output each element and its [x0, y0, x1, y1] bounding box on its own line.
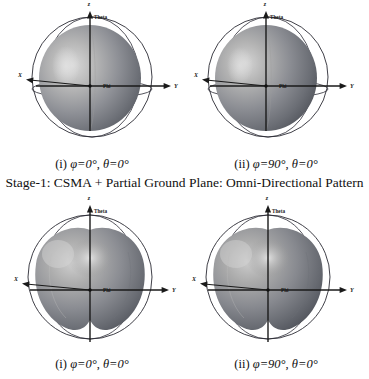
origin-marker [264, 84, 267, 87]
z-axis-arrowhead [263, 11, 269, 18]
pattern-panel-top-left: z Theta Y X Phi [0, 0, 184, 155]
subcaption-index: (i) [55, 157, 67, 171]
theta-axis-label: Theta [272, 208, 285, 214]
x-axis-arrowhead [200, 281, 208, 287]
z-axis-label: z [87, 195, 91, 201]
pattern-panel-top-right: z Theta Y X Phi [184, 0, 368, 155]
lobe-specular-highlight [52, 46, 80, 86]
phi-label: Phi [103, 83, 111, 89]
phi-label: Phi [103, 287, 111, 293]
x-axis-label: X [13, 276, 19, 282]
subcaption-index: (ii) [234, 357, 249, 371]
x-axis-label: X [17, 72, 23, 78]
y-axis-label: Y [172, 287, 177, 293]
y-axis-arrowhead [340, 287, 347, 293]
subcaption-theta: θ=0° [103, 157, 129, 171]
origin-marker [88, 288, 91, 291]
subcaption-bottom-right: (ii) φ=90°, θ=0° [184, 355, 368, 374]
subcaption-phi: φ=0° [70, 357, 97, 371]
y-axis-arrowhead [162, 287, 169, 293]
subcaption-theta: θ=0° [292, 357, 318, 371]
subcaption-row-stage-2: (i) φ=0°, θ=0° (ii) φ=90°, θ=0° [0, 355, 369, 374]
y-axis-label: Y [350, 287, 355, 293]
origin-marker [266, 288, 269, 291]
theta-axis-label: Theta [94, 14, 107, 20]
z-axis-arrowhead [87, 205, 93, 212]
pattern-row-stage-1: z Theta Y X Phi [0, 0, 369, 155]
pattern-row-stage-2: z Theta Y X Phi [0, 192, 369, 355]
y-axis-arrowhead [340, 83, 347, 89]
subcaption-index: (i) [55, 357, 67, 371]
theta-axis-label: Theta [270, 14, 283, 20]
phi-label: Phi [281, 287, 289, 293]
z-axis-arrowhead [87, 11, 93, 18]
z-axis-arrowhead [265, 205, 271, 212]
z-axis-label: z [265, 195, 269, 201]
subcaption-theta: θ=0° [292, 157, 318, 171]
x-axis-arrowhead [202, 77, 210, 83]
radiation-pattern-figure: z Theta Y X Phi [0, 0, 369, 379]
subcaption-top-left: (i) φ=0°, θ=0° [0, 155, 184, 174]
x-axis-arrowhead [26, 77, 34, 83]
lobe-specular-highlight [220, 240, 252, 268]
subcaption-row-stage-1: (i) φ=0°, θ=0° (ii) φ=90°, θ=0° [0, 155, 369, 174]
subcaption-theta: θ=0° [103, 357, 129, 371]
subcaption-index: (ii) [234, 157, 249, 171]
subcaption-bottom-left: (i) φ=0°, θ=0° [0, 355, 184, 374]
subcaption-phi: φ=90° [253, 357, 286, 371]
x-axis-arrowhead [22, 281, 30, 287]
subcaption-top-right: (ii) φ=90°, θ=0° [184, 155, 368, 174]
x-axis-label: X [193, 72, 199, 78]
y-axis-arrowhead [164, 83, 171, 89]
y-axis-label: Y [350, 83, 355, 89]
main-caption: Stage-1: CSMA + Partial Ground Plane: Om… [0, 174, 369, 192]
z-axis-label: z [87, 1, 91, 7]
z-axis-label: z [263, 1, 267, 7]
lobe-specular-highlight [227, 47, 253, 85]
phi-label: Phi [279, 83, 287, 89]
lobe-specular-highlight [42, 240, 74, 268]
x-axis-label: X [191, 276, 197, 282]
pattern-panel-bottom-right: z Theta Y X Phi [184, 192, 368, 355]
origin-marker [88, 84, 91, 87]
subcaption-phi: φ=0° [70, 157, 97, 171]
y-axis-label: Y [174, 83, 179, 89]
subcaption-phi: φ=90° [253, 157, 286, 171]
theta-axis-label: Theta [94, 208, 107, 214]
pattern-panel-bottom-left: z Theta Y X Phi [0, 192, 184, 355]
